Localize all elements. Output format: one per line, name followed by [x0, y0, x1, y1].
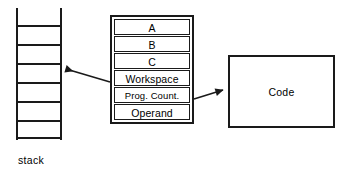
stack-rung [16, 63, 62, 65]
register-row-b: B [114, 36, 190, 52]
stack-rung [16, 44, 62, 46]
stack-rung [16, 101, 62, 103]
register-row-workspace: Workspace [114, 70, 190, 86]
code-box-label: Code [269, 86, 295, 98]
arrow-prog-count-to-code [194, 90, 223, 99]
register-row-operand: Operand [114, 104, 190, 120]
stack-rung [16, 82, 62, 84]
code-box: Code [228, 55, 335, 128]
register-row-a: A [114, 19, 190, 35]
register-box: A B C Workspace Prog. Count. Operand [110, 15, 194, 124]
register-row-c: C [114, 53, 190, 69]
stack-caption-label: stack [18, 154, 44, 166]
stack-figure [16, 8, 62, 140]
stack-rung [16, 137, 62, 139]
diagram-canvas: A B C Workspace Prog. Count. Operand Cod… [0, 0, 346, 181]
stack-rung [16, 25, 62, 27]
register-row-program-counter: Prog. Count. [114, 87, 190, 103]
arrow-workspace-to-stack [66, 69, 110, 82]
stack-rung [16, 120, 62, 122]
